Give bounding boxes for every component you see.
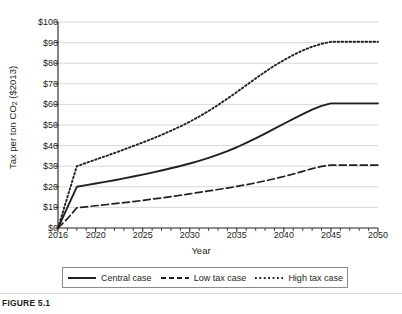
footer-divider <box>0 293 402 294</box>
chart-legend: Central caseLow tax caseHigh tax case <box>62 267 348 288</box>
y-tick-label: $20 <box>24 182 58 191</box>
x-tick-label: 2045 <box>321 231 341 240</box>
x-tick-label: 2040 <box>274 231 294 240</box>
series-line-low-tax-case <box>58 165 378 228</box>
series-line-high-tax-case <box>58 42 378 228</box>
figure-container: $0$10$20$30$40$50$60$70$80$90$100 201620… <box>0 0 402 314</box>
y-tick-label: $30 <box>24 162 58 171</box>
legend-item-low-tax-case[interactable]: Low tax case <box>160 273 247 283</box>
y-tick-label: $70 <box>24 79 58 88</box>
figure-caption: FIGURE 5.1 <box>2 298 50 308</box>
y-axis-title-main: Tax per ton CO <box>7 105 18 169</box>
legend-line-swatch <box>254 274 284 282</box>
x-tick-label: 2050 <box>368 231 388 240</box>
legend-item-central-case[interactable]: Central case <box>67 273 152 283</box>
legend-item-high-tax-case[interactable]: High tax case <box>254 273 343 283</box>
y-tick-label: $60 <box>24 100 58 109</box>
y-axis-title-subscript: 2 <box>11 101 18 105</box>
y-tick-label: $90 <box>24 38 58 47</box>
x-tick-label: 2030 <box>180 231 200 240</box>
legend-label: High tax case <box>288 273 343 283</box>
line-chart-svg <box>0 0 402 260</box>
y-axis-title-tail: ($2013) <box>7 66 18 101</box>
data-series-group <box>58 42 378 228</box>
x-tick-label: 2025 <box>133 231 153 240</box>
x-axis-tick-labels: 20162020202520302035204020452050 <box>0 231 402 245</box>
x-tick-label: 2016 <box>48 231 68 240</box>
y-axis-tick-labels: $0$10$20$30$40$50$60$70$80$90$100 <box>22 0 58 260</box>
legend-label: Low tax case <box>194 273 247 283</box>
y-tick-label: $80 <box>24 59 58 68</box>
y-axis-title: Tax per ton CO2 ($2013) <box>7 43 18 193</box>
legend-line-swatch <box>160 274 190 282</box>
chart-plot-area: $0$10$20$30$40$50$60$70$80$90$100 201620… <box>0 0 402 260</box>
legend-label: Central case <box>101 273 152 283</box>
y-tick-label: $40 <box>24 141 58 150</box>
y-tick-label: $100 <box>24 18 58 27</box>
x-axis-title: Year <box>0 245 402 256</box>
legend-line-swatch <box>67 274 97 282</box>
x-tick-label: 2020 <box>86 231 106 240</box>
x-tick-label: 2035 <box>227 231 247 240</box>
y-tick-label: $50 <box>24 121 58 130</box>
y-tick-label: $10 <box>24 203 58 212</box>
gridlines-group <box>58 22 378 207</box>
